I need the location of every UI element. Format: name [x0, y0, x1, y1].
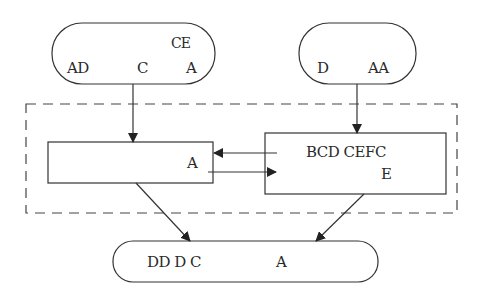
bottom-node-label-dddc: DD D C [147, 255, 201, 270]
left-box-label: A [187, 156, 198, 171]
top-left-node-label-ad: AD [67, 61, 89, 76]
right-box-label-line1: BCD CEFC [306, 145, 386, 160]
top-left-node-label-c: C [137, 61, 148, 76]
arrow-right-box-to-bottom-node [316, 194, 364, 241]
top-left-node-label-a: A [186, 61, 197, 76]
diagram-graphics [0, 0, 481, 296]
top-right-node-label-d: D [317, 61, 329, 76]
arrow-left-box-to-bottom-node [136, 183, 190, 241]
top-left-node-label-ce: CE [171, 36, 190, 50]
diagram-canvas: CE AD C A D AA A BCD CEFC E DD D C A [0, 0, 481, 296]
top-right-node-label-aa: AA [368, 61, 389, 76]
right-box-label-line2: E [381, 167, 392, 182]
bottom-node-label-a: A [276, 255, 287, 270]
